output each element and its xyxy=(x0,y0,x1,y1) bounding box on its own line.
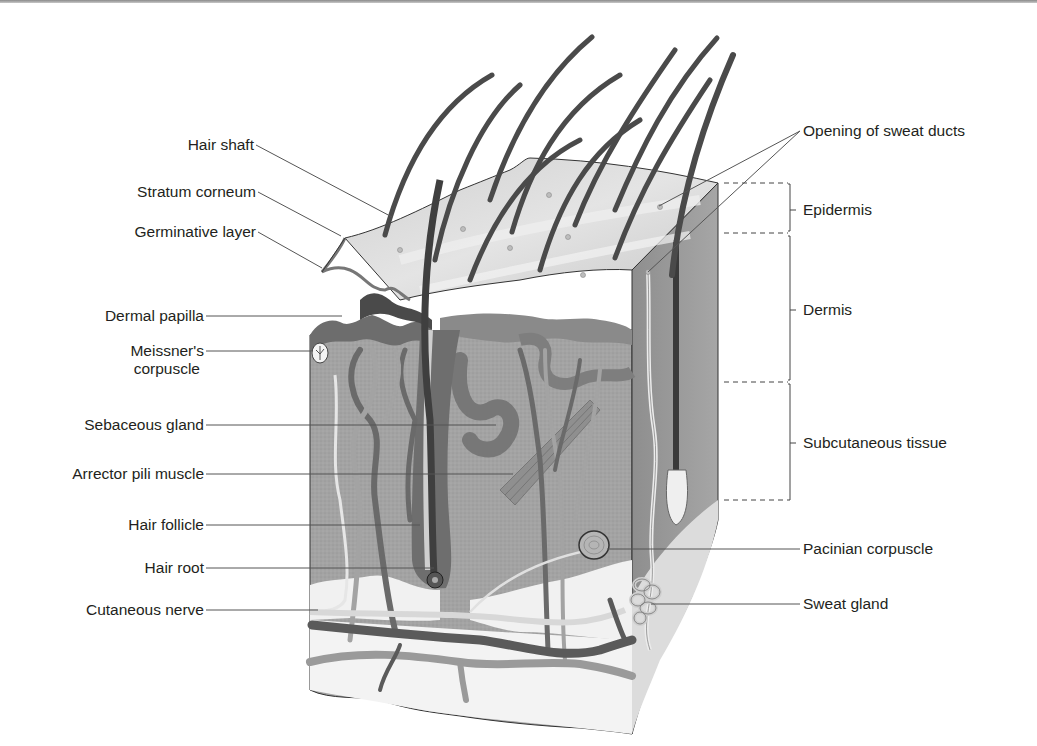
label-hair-follicle: Hair follicle xyxy=(40,516,204,534)
label-meissners-line1: Meissner's xyxy=(60,342,204,360)
layer-brackets xyxy=(724,183,796,500)
label-epidermis: Epidermis xyxy=(803,201,872,219)
label-sweat-gland: Sweat gland xyxy=(803,595,888,613)
label-pacinian-corpuscle: Pacinian corpuscle xyxy=(803,540,933,558)
label-subcutaneous-tissue: Subcutaneous tissue xyxy=(803,434,947,452)
label-meissners-corpuscle: Meissner's corpuscle xyxy=(60,342,204,378)
label-cutaneous-nerve: Cutaneous nerve xyxy=(20,601,204,619)
meissners-corpuscle-shape xyxy=(312,343,328,363)
label-meissners-line2: corpuscle xyxy=(60,360,204,378)
label-dermis: Dermis xyxy=(803,301,852,319)
label-arrector-pili-muscle: Arrector pili muscle xyxy=(0,465,204,483)
label-germinative-layer: Germinative layer xyxy=(60,223,256,241)
label-hair-shaft: Hair shaft xyxy=(112,136,254,154)
label-sebaceous-gland: Sebaceous gland xyxy=(20,416,204,434)
label-opening-of-sweat-ducts: Opening of sweat ducts xyxy=(803,122,965,140)
pacinian-corpuscle-shape xyxy=(579,531,609,559)
label-dermal-papilla: Dermal papilla xyxy=(40,307,204,325)
label-hair-root: Hair root xyxy=(40,559,204,577)
label-stratum-corneum: Stratum corneum xyxy=(60,183,256,201)
